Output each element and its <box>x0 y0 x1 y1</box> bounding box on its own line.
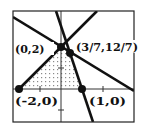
vertex-point-neg2-0 <box>15 85 23 93</box>
vertex-label-1-0: (1,0) <box>89 95 126 108</box>
vertex-point-1-0 <box>78 85 86 93</box>
vertex-point-3-7-12-7 <box>66 49 74 57</box>
vertex-point-0-2 <box>57 43 65 51</box>
vertex-label-neg2-0: (-2,0) <box>15 95 58 108</box>
feasible-region-diagram: (0,2) (3/7,12/7) (-2,0) (1,0) <box>0 0 149 129</box>
vertex-label-3-7-12-7: (3/7,12/7) <box>76 41 138 54</box>
vertex-label-0-2: (0,2) <box>15 43 45 56</box>
